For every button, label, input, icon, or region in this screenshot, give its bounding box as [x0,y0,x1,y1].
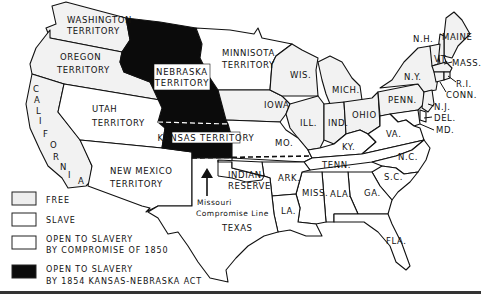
label-va: VA. [386,129,401,139]
bottom-rule [0,291,481,294]
label-california-letter: C [33,84,40,94]
label-california-letter: I [68,170,71,180]
label-utah-1: UTAH [92,104,117,114]
label-wis: WIS. [290,70,311,80]
label-maine: MAINE [442,32,472,42]
label-vt: VT. [434,54,449,64]
label-fla: FLA. [386,236,407,246]
label-california-letter: F [43,129,49,139]
legend-label-open-1854-1: OPEN TO SLAVERY [46,265,133,274]
region-new-mexico-territory [80,140,192,212]
label-texas: TEXAS [221,223,253,233]
label-tenn: TENN. [321,160,351,170]
legend-label-open-1854-2: BY 1854 KANSAS-NEBRASKA ACT [46,277,202,286]
label-mo: MO. [275,138,293,148]
legend-label-open-1850-2: BY COMPROMISE OF 1850 [46,246,169,255]
label-ga: GA. [364,188,381,198]
label-oregon-2: TERRITORY [56,65,110,75]
label-nebraska-2: TERRITORY [154,78,210,88]
legend-swatch-slave [12,213,36,226]
label-ky: KY. [342,142,355,152]
label-new-mexico-1: NEW MEXICO [110,166,173,176]
label-conn: CONN. [446,90,477,100]
label-md: MD. [436,125,454,135]
kansas-nebraska-map: WASHINGTON TERRITORY OREGON TERRITORY UT… [0,0,481,299]
label-minnesota-1: MINNISOTA [222,48,275,58]
label-iowa: IOWA [264,100,289,110]
legend-swatch-open-1854 [12,265,36,278]
label-missouri-line-1: Missouri [197,198,232,207]
label-penn: PENN. [388,95,417,105]
label-oregon-1: OREGON [60,52,101,62]
label-indian-1: INDIAN [228,170,262,180]
label-del: DEL. [434,113,456,123]
legend-swatch-open-1850 [12,236,36,249]
label-la: LA. [281,206,296,216]
state-new-york [380,46,438,92]
state-new-jersey [422,90,434,112]
label-ill: ILL. [300,118,317,128]
label-ala: ALA. [330,189,352,199]
label-minnesota-2: TERRITORY [221,60,275,70]
label-california-letter: R [53,152,60,162]
label-ri: R.I. [456,79,472,89]
state-michigan [318,56,362,104]
state-connecticut [434,72,444,82]
label-mass: MASS. [452,58,481,68]
state-delaware [420,110,426,122]
label-california-letter: O [50,140,57,150]
label-sc: S.C. [384,172,403,182]
legend-label-slave: SLAVE [46,216,76,225]
label-ohio: OHIO [352,110,377,120]
label-miss: MISS. [302,188,328,198]
label-california-letter: L [36,106,41,116]
label-ark: ARK. [278,173,300,183]
label-california-letter: A [34,95,40,105]
label-nh: N.H. [413,34,433,44]
label-washington-1: WASHINGTON [67,15,132,25]
label-ny: N.Y. [404,72,422,82]
label-california-letter: A [78,176,84,186]
label-utah-2: TERRITORY [91,118,145,128]
label-ind: IND. [328,118,349,128]
label-nebraska-1: NEBRASKA [156,67,208,77]
label-mich: MICH. [332,85,360,95]
label-indian-2: RESERVE [228,181,271,191]
label-missouri-line-2: Compromise Line [196,209,269,218]
legend-label-open-1850-1: OPEN TO SLAVERY [46,235,133,244]
label-nc: N.C. [398,152,418,162]
label-washington-2: TERRITORY [66,26,120,36]
legend-label-free: FREE [46,196,70,205]
label-new-mexico-2: TERRITORY [109,179,163,189]
state-rhode-island [444,72,450,80]
label-kansas: KANSAS TERRITORY [157,133,254,143]
label-nj: N.J. [434,102,451,112]
label-california-letter: N [60,162,67,172]
state-mississippi [296,172,326,224]
label-california-letter: I [39,116,42,126]
legend-swatch-free [12,192,36,205]
